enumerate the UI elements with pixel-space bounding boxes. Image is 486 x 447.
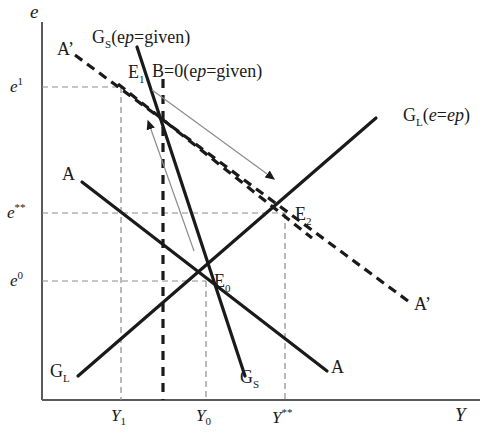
guide-arrow-down-right <box>152 90 274 179</box>
figure-canvas: e Y e1 e** e0 Y1 Y0 Y** GS(ep=given) B=0… <box>0 0 486 447</box>
curve-label-a-prime-upper: A’ <box>57 40 74 58</box>
E0-subscript: 0 <box>225 282 231 294</box>
gs-top-suffix-b: =given) <box>134 27 190 47</box>
curve-label-b-equals-zero: B=0(ep=given) <box>152 62 262 80</box>
x-axis-label: Y <box>455 405 466 424</box>
gl-lower-subscript: L <box>63 372 70 384</box>
y-tick-label-e1: e1 <box>10 76 23 95</box>
gl-right-e-first: e <box>429 105 437 125</box>
x-tick-sub-Y0: 0 <box>205 415 211 427</box>
curve-label-gl-lower: GL <box>50 362 70 384</box>
E0-base: E <box>214 271 225 291</box>
y-tick-sup-e1: 1 <box>18 75 24 87</box>
gs-top-suffix-a: (e <box>111 27 125 47</box>
point-label-E2: E2 <box>295 205 312 227</box>
E1-subscript: 1 <box>139 73 145 85</box>
curve-label-a-prime-lower: A’ <box>414 295 431 313</box>
gs-lower-prefix: G <box>240 367 253 387</box>
curve-gs <box>137 47 245 376</box>
gs-lower-subscript: S <box>253 378 259 390</box>
x-tick-label-Y-doublestar: Y** <box>272 407 292 426</box>
b0-p-italic: p <box>197 61 206 81</box>
gl-right-equals: = <box>437 105 447 125</box>
E1-base: E <box>128 62 139 82</box>
curve-label-gs-lower: GS <box>240 368 259 390</box>
x-tick-sub-Y1: 1 <box>120 415 126 427</box>
gs-top-p-italic: p <box>125 27 134 47</box>
b0-prefix: B=0(e <box>152 61 197 81</box>
curve-a-prime <box>75 55 408 301</box>
curve-b-equals-zero <box>118 84 312 238</box>
y-tick-base-e0: e <box>10 271 18 290</box>
y-tick-base-e1: e <box>10 77 18 96</box>
curve-label-a-lower: A <box>331 358 344 376</box>
curve-label-gl-right: GL(e=ep) <box>403 106 470 128</box>
b0-suffix: =given) <box>206 61 262 81</box>
y-tick-sup-e-doublestar: ** <box>15 201 26 213</box>
gl-right-prefix: G <box>403 105 416 125</box>
gs-top-prefix: G <box>92 27 105 47</box>
gl-right-p-italic: p <box>455 105 464 125</box>
y-tick-label-e0: e0 <box>10 270 23 289</box>
E2-base: E <box>295 204 306 224</box>
gl-right-close-paren: ) <box>464 105 470 125</box>
curve-gl <box>78 118 376 376</box>
guide-arrow-up-left <box>148 121 194 251</box>
point-label-E1: E1 <box>128 63 145 85</box>
curve-label-gs-top: GS(ep=given) <box>92 28 190 50</box>
y-tick-base-e-doublestar: e <box>7 203 15 222</box>
gl-right-e-second: e <box>447 105 455 125</box>
point-label-E0: E0 <box>214 272 231 294</box>
y-tick-sup-e0: 0 <box>18 269 24 281</box>
y-tick-label-e-doublestar: e** <box>7 202 26 221</box>
x-tick-label-Y0: Y0 <box>196 407 211 427</box>
x-tick-sup-Y-doublestar: ** <box>281 406 292 418</box>
y-axis-label: e <box>30 2 38 21</box>
E2-subscript: 2 <box>306 215 312 227</box>
curve-label-a-upper: A <box>62 165 75 183</box>
gl-lower-prefix: G <box>50 361 63 381</box>
x-tick-label-Y1: Y1 <box>111 407 126 427</box>
gl-right-subscript: L <box>416 116 423 128</box>
